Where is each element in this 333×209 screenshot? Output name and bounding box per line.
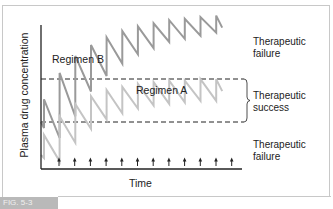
dose-arrow-icon (136, 158, 140, 162)
regimen-a-label: Regimen A (136, 84, 187, 96)
dose-arrow-icon (104, 158, 108, 162)
zone-label-upper-failure: Therapeutic failure (253, 36, 306, 60)
zone-label-line: Therapeutic (253, 36, 306, 48)
regimen-b-line (41, 16, 222, 138)
success-brace (244, 79, 250, 122)
dose-arrow-icon (151, 158, 155, 162)
dose-arrow-icon (120, 158, 124, 162)
figure-tag: FIG. 5-3 (0, 197, 58, 209)
zone-label-line: failure (253, 151, 306, 163)
zone-label-line: Therapeutic (253, 139, 306, 151)
dose-arrow-icon (199, 158, 203, 162)
dose-arrow-icon (73, 158, 77, 162)
zone-label-line: Therapeutic (253, 90, 306, 102)
regimen-b-label: Regimen B (52, 53, 104, 65)
dose-arrow-icon (230, 158, 234, 162)
dose-arrow-icon (214, 158, 218, 162)
zone-label-success: Therapeutic success (253, 90, 306, 114)
zone-label-line: success (253, 102, 306, 114)
zone-label-line: failure (253, 48, 306, 60)
y-axis-label: Plasma drug concentration (18, 33, 30, 158)
x-axis-label: Time (129, 177, 152, 189)
dose-arrow-icon (89, 158, 93, 162)
dose-arrow-icon (183, 158, 187, 162)
zone-label-lower-failure: Therapeutic failure (253, 139, 306, 163)
dose-arrow-icon (167, 158, 171, 162)
regimen-a-line (41, 79, 222, 161)
